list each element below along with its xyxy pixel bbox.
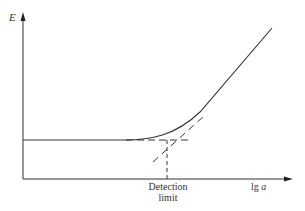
detection-limit-label: Detection limit: [146, 181, 190, 203]
detection-limit-line1: Detection: [146, 181, 190, 192]
response-curve: [23, 28, 272, 140]
slope-extrapolation: [153, 116, 204, 162]
x-axis-label: lg a: [251, 181, 266, 192]
x-axis-label-prefix: lg: [251, 181, 261, 192]
y-axis-label: E: [9, 12, 16, 23]
x-axis-label-var: a: [261, 181, 266, 192]
x-axis-arrow-icon: [284, 177, 293, 182]
calibration-diagram: [0, 0, 305, 211]
detection-limit-line2: limit: [146, 192, 190, 203]
y-axis-arrow-icon: [21, 12, 26, 21]
